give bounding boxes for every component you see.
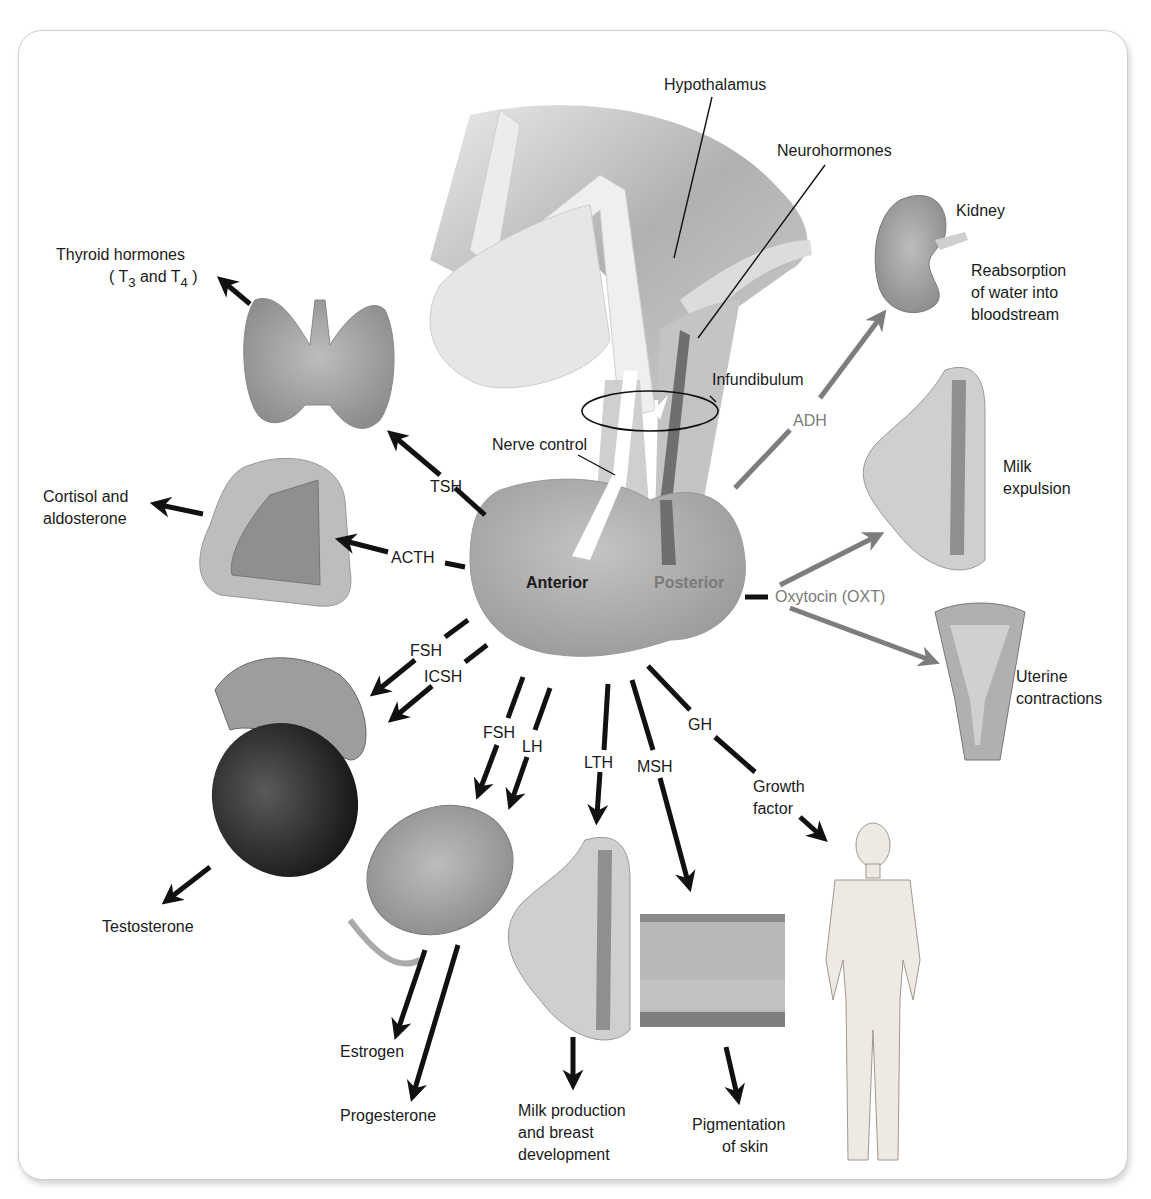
icsh-arrow-segment (465, 645, 487, 662)
skin-illustration (640, 914, 785, 1027)
human-figure-illustration (826, 823, 920, 1160)
milk-expulsion-label-1: Milk (1003, 456, 1031, 477)
milk-production-label-1: Milk production (518, 1100, 626, 1121)
oxt-breast-arrow (780, 537, 875, 585)
fsh-testis-label: FSH (410, 640, 442, 661)
lh-label: LH (522, 736, 542, 757)
lh-arrow-segment (535, 688, 550, 730)
ovary-illustration (346, 782, 534, 963)
aldosterone-label: aldosterone (43, 508, 127, 529)
milk-expulsion-label-2: expulsion (1003, 478, 1071, 499)
icsh-label: ICSH (424, 666, 462, 687)
neurohormones-label: Neurohormones (777, 140, 892, 161)
adrenal-illustration (200, 458, 351, 606)
cortisol-arrow (160, 505, 203, 514)
t3-t4-label: ( T3 and T4 ) (109, 266, 198, 288)
fsh-ovary-arrow (480, 745, 497, 790)
msh-arrow-segment (632, 680, 653, 750)
posterior-lobe-label: Posterior (654, 572, 724, 593)
lth-arrow (597, 772, 600, 815)
kidney-illustration (875, 195, 968, 312)
pigmentation-arrow (726, 1047, 737, 1095)
reabsorption-label-1: Reabsorption (971, 260, 1066, 281)
fsh-testis-arrow (378, 660, 415, 690)
nerve-control-label: Nerve control (492, 434, 587, 455)
icsh-arrow (396, 686, 432, 716)
milk-production-label-3: development (518, 1144, 610, 1165)
uterine-contractions-label-2: contractions (1016, 688, 1102, 709)
thyroid-hormone-arrow (225, 283, 250, 304)
tsh-label: TSH (430, 476, 462, 497)
fsh-testis-arrow-segment (445, 620, 468, 637)
growth-label: Growth (753, 776, 805, 797)
testis-illustration (187, 658, 383, 901)
adh-arrow-segment (735, 430, 790, 488)
gh-arrow-segment (648, 666, 690, 710)
milk-production-label-2: and breast (518, 1122, 594, 1143)
kidney-label: Kidney (956, 200, 1005, 221)
acth-arrow-segment (445, 563, 465, 567)
lth-arrow-segment (604, 684, 608, 750)
uterus-illustration (935, 603, 1025, 760)
msh-arrow (660, 778, 688, 882)
thyroid-hormones-label: Thyroid hormones (56, 244, 185, 265)
lth-label: LTH (584, 752, 613, 773)
pituitary-gland (470, 470, 745, 656)
factor-label: factor (753, 798, 793, 819)
pigmentation-label-2: of skin (722, 1136, 768, 1157)
hypothalamus-label: Hypothalamus (664, 74, 766, 95)
breast-illustration-lth (508, 837, 630, 1040)
uterine-contractions-label-1: Uterine (1016, 666, 1068, 687)
reabsorption-label-3: bloodstream (971, 304, 1059, 325)
testosterone-arrow (170, 867, 210, 898)
diagram-artwork (0, 0, 1151, 1199)
lh-arrow (512, 757, 527, 800)
anterior-lobe-label: Anterior (526, 572, 588, 593)
acth-label: ACTH (391, 547, 435, 568)
estrogen-label: Estrogen (340, 1041, 404, 1062)
cortisol-label: Cortisol and (43, 486, 128, 507)
acth-arrow (345, 541, 388, 552)
gh-label: GH (688, 714, 712, 735)
oxytocin-label: Oxytocin (OXT) (775, 586, 885, 607)
testosterone-label: Testosterone (102, 916, 194, 937)
gh-arrow (715, 737, 755, 772)
adh-arrow (820, 318, 880, 398)
thyroid-illustration (244, 298, 394, 428)
fsh-ovary-label: FSH (483, 722, 515, 743)
msh-label: MSH (637, 756, 673, 777)
pigmentation-label-1: Pigmentation (692, 1114, 785, 1135)
progesterone-label: Progesterone (340, 1105, 436, 1126)
breast-illustration-oxt (863, 367, 985, 570)
oxt-uterus-arrow (790, 608, 930, 660)
infundibulum-label: Infundibulum (712, 369, 804, 390)
fsh-ovary-arrow-segment (508, 677, 523, 718)
growth-factor-arrow (800, 817, 820, 835)
reabsorption-label-2: of water into (971, 282, 1058, 303)
tsh-arrow (395, 437, 440, 475)
adh-label: ADH (793, 410, 827, 431)
